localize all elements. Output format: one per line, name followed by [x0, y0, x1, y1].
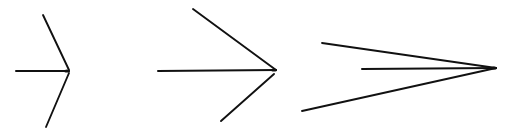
arrow-tip-blot	[491, 66, 497, 69]
arrow-2	[158, 9, 277, 121]
arrow-fin-upper	[43, 15, 69, 70]
arrow-fin-lower	[302, 68, 496, 111]
arrow-3	[302, 43, 497, 111]
arrow-fin-upper	[322, 43, 496, 68]
arrow-1	[16, 15, 70, 127]
arrow-shaft	[158, 70, 276, 71]
arrow-fin-lower	[46, 73, 69, 127]
arrow-fin-upper	[193, 9, 276, 70]
arrow-tip-blot	[271, 68, 277, 71]
arrow-shaft	[362, 68, 496, 69]
arrow-fin-lower	[221, 74, 274, 121]
arrow-figures-canvas	[0, 0, 511, 133]
arrow-tip-blot	[64, 69, 70, 72]
